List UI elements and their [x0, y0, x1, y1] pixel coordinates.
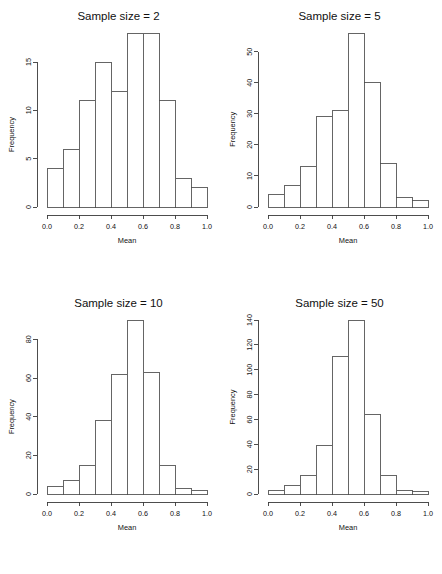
histogram-panel: Sample size = 50020406080100120140Freque… [221, 287, 442, 574]
y-axis-tick-label: 120 [245, 339, 254, 351]
histogram-bar [95, 421, 111, 494]
y-axis-tick-label: 50 [245, 48, 254, 56]
y-axis-tick-label: 10 [245, 172, 254, 180]
histogram-bar [268, 490, 284, 494]
x-axis-tick-label: 0.2 [295, 509, 305, 518]
histogram-panel: Sample size = 501020304050Frequency0.00.… [221, 0, 442, 287]
panel-title: Sample size = 50 [295, 297, 384, 309]
x-axis-tick-label: 0.0 [263, 222, 273, 231]
histogram-bar [364, 83, 380, 207]
y-axis-tick-label: 40 [245, 79, 254, 87]
histogram-bar [332, 111, 348, 207]
histogram-bar [300, 167, 316, 207]
histogram-bar [300, 475, 316, 494]
x-axis-tick-label: 0.4 [327, 509, 337, 518]
panel-title: Sample size = 10 [74, 297, 163, 309]
y-axis-tick-label: 100 [245, 364, 254, 376]
x-axis-tick-label: 1.0 [423, 222, 433, 231]
y-axis-tick-label: 0 [24, 205, 33, 209]
y-axis-tick-label: 20 [245, 141, 254, 149]
histogram-bar [79, 101, 95, 207]
x-axis-tick-label: 0.2 [295, 222, 305, 231]
y-axis-tick-label: 10 [24, 106, 33, 114]
y-axis-tick-label: 0 [24, 492, 33, 496]
y-axis-tick-label: 15 [24, 58, 33, 66]
y-axis-tick-label: 80 [245, 391, 254, 399]
x-axis-label: Mean [339, 523, 358, 532]
y-axis-tick-label: 140 [245, 314, 254, 326]
y-axis-tick-label: 40 [24, 413, 33, 421]
x-axis-tick-label: 0.4 [106, 222, 116, 231]
histogram-bar [191, 490, 207, 494]
x-axis-tick-label: 0.4 [327, 222, 337, 231]
x-axis-tick-label: 1.0 [423, 509, 433, 518]
x-axis-tick-label: 0.6 [138, 509, 148, 518]
x-axis-tick-label: 1.0 [202, 509, 212, 518]
x-axis-label: Mean [118, 236, 137, 245]
x-axis-tick-label: 1.0 [202, 222, 212, 231]
histogram-bar [159, 101, 175, 207]
histogram-bar [79, 465, 95, 494]
x-axis-tick-label: 0.8 [391, 509, 401, 518]
histogram-bar [284, 485, 300, 494]
histogram-bar [95, 62, 111, 207]
histogram-bar [396, 490, 412, 494]
y-axis-label: Frequency [228, 389, 237, 424]
x-axis-tick-label: 0.6 [359, 509, 369, 518]
histogram-bar [412, 492, 428, 494]
x-axis-tick-label: 0.2 [74, 509, 84, 518]
x-axis-label: Mean [339, 236, 358, 245]
histogram-bar [380, 475, 396, 494]
x-axis-label: Mean [118, 523, 137, 532]
histogram-panel: Sample size = 10020406080Frequency0.00.2… [0, 287, 221, 574]
histogram-bar [364, 414, 380, 494]
histogram-bar [316, 446, 332, 494]
histogram-panel: Sample size = 2051015Frequency0.00.20.40… [0, 0, 221, 287]
y-axis-label: Frequency [7, 399, 16, 434]
histogram-bar [316, 117, 332, 207]
y-axis-tick-label: 20 [24, 451, 33, 459]
histogram-bar [47, 486, 63, 494]
histogram-bar [396, 198, 412, 207]
x-axis-tick-label: 0.8 [170, 222, 180, 231]
y-axis-tick-label: 40 [245, 440, 254, 448]
x-axis-tick-label: 0.8 [170, 509, 180, 518]
panel-title: Sample size = 2 [77, 10, 159, 22]
histogram-grid: Sample size = 2051015Frequency0.00.20.40… [0, 0, 442, 574]
x-axis-tick-label: 0.8 [391, 222, 401, 231]
histogram-bar [111, 91, 127, 207]
y-axis-tick-label: 60 [245, 415, 254, 423]
y-axis-tick-label: 60 [24, 374, 33, 382]
histogram-bar [175, 178, 191, 207]
y-axis-tick-label: 80 [24, 335, 33, 343]
x-axis-tick-label: 0.0 [263, 509, 273, 518]
histogram-bar [348, 320, 364, 494]
x-axis-tick-label: 0.2 [74, 222, 84, 231]
x-axis-tick-label: 0.6 [359, 222, 369, 231]
y-axis-tick-label: 5 [24, 157, 33, 161]
y-axis-tick-label: 0 [245, 205, 254, 209]
y-axis-label: Frequency [7, 117, 16, 152]
x-axis-tick-label: 0.0 [42, 222, 52, 231]
y-axis-label: Frequency [228, 112, 237, 147]
histogram-bar [332, 356, 348, 494]
histogram-bar [268, 195, 284, 207]
histogram-bar [191, 188, 207, 207]
x-axis-tick-label: 0.4 [106, 509, 116, 518]
histogram-bar [159, 465, 175, 494]
histogram-bar [111, 374, 127, 494]
x-axis-tick-label: 0.0 [42, 509, 52, 518]
histogram-bar [47, 168, 63, 207]
y-axis-tick-label: 0 [245, 492, 254, 496]
histogram-bar [348, 33, 364, 207]
x-axis-tick-label: 0.6 [138, 222, 148, 231]
y-axis-tick-label: 20 [245, 465, 254, 473]
y-axis-tick-label: 30 [245, 110, 254, 118]
panel-title: Sample size = 5 [298, 10, 380, 22]
histogram-bar [412, 201, 428, 207]
histogram-bar [143, 33, 159, 207]
histogram-bar [284, 185, 300, 207]
histogram-bar [143, 372, 159, 494]
histogram-bar [175, 488, 191, 494]
histogram-bar [63, 149, 79, 207]
